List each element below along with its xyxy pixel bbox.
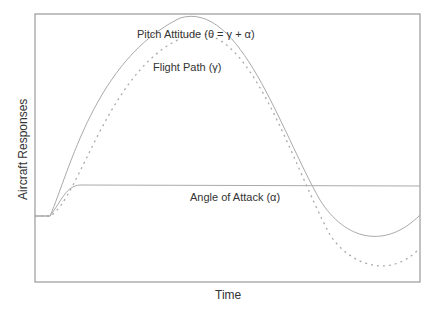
x-axis-label: Time bbox=[215, 288, 242, 302]
flight-path-label: Flight Path (γ) bbox=[153, 61, 221, 73]
y-axis-label: Aircraft Responses bbox=[16, 99, 30, 200]
plot-frame bbox=[35, 14, 420, 282]
flight-path-line bbox=[35, 34, 420, 266]
aoa-label: Angle of Attack (α) bbox=[190, 191, 280, 203]
chart: Pitch Attitude (θ = γ + α) Flight Path (… bbox=[0, 0, 443, 313]
pitch-attitude-line bbox=[35, 16, 420, 236]
pitch-label: Pitch Attitude (θ = γ + α) bbox=[137, 28, 255, 40]
